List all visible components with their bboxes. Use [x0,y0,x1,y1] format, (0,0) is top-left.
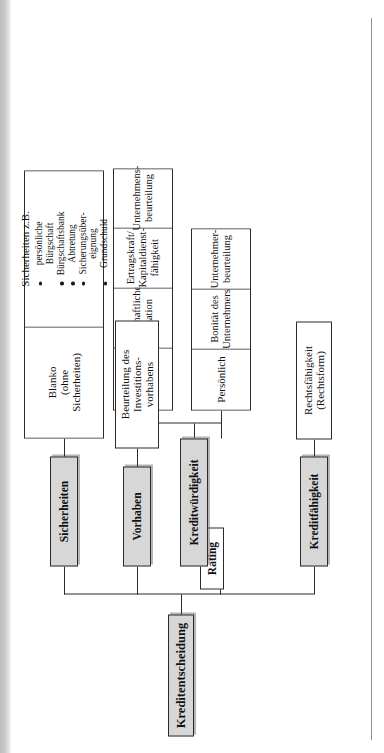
connector-trunk-to-vorhaben [137,566,138,594]
leaf-label: Bonität des Unternehmers [209,289,233,348]
connector-trunk-to-sicherheiten [64,566,65,594]
node-root-kreditentscheidung[interactable]: Kreditentscheidung [168,614,194,736]
leaf-label: Rechtsfähigkeit (Rechtsform) [302,343,327,416]
node-sicherheiten[interactable]: Sicherheiten [50,456,78,566]
connector-root-stub [181,594,182,614]
leaf-label: Beurteilung des Investitions- vorhabens [119,347,156,420]
connector-kreditwuerdigkeit-stub [194,423,195,438]
node-label: Sicherheiten [58,478,71,543]
sicherheiten-list-item: Abtretung [67,211,78,275]
sicherheiten-list-item: Bürgschaft [45,211,56,275]
connector-trunk [64,593,314,594]
node-persoenlich[interactable]: Persönlich [192,348,250,409]
diagram-canvas: Kreditentscheidung Kreditfähigkeit Recht… [0,0,384,753]
sicherheiten-list-item: Sicherungsüber- [78,211,89,275]
leaf-label: Blanko (ohne Sicherheiten) [46,353,83,412]
leaf-sicherheiten-list[interactable]: Sicherheiten z.B. persönlicheBürgschaftB… [25,171,103,326]
group-persoenlich: Persönlich Bonität des Unternehmers Unte… [191,228,251,410]
leaf-unternehmerbeurteilung[interactable]: Unternehmer- beurteilung [192,229,250,288]
leaf-rechtsfaehigkeit[interactable]: Rechtsfähigkeit (Rechtsform) [296,321,332,439]
leaf-beurteilung-investitionsvorhabens[interactable]: Beurteilung des Investitions- vorhabens [115,320,159,448]
node-label: Persönlich [215,356,227,402]
node-kreditfaehigkeit[interactable]: Kreditfähigkeit [300,456,328,566]
node-label: Kreditwürdigkeit [188,457,201,547]
node-label: Kreditentscheidung [174,620,188,729]
leaf-ertragskraft[interactable]: Ertragskraft/ Kapitaldienst- fähigkeit [114,227,172,287]
leaf-label: Unternehmens- beurteilung [131,165,155,230]
connector-kreditfaehigkeit-to-leaf [314,439,315,456]
connector-trunk-to-kreditfaehigkeit [314,566,315,594]
node-kreditwuerdigkeit[interactable]: Kreditwürdigkeit [180,438,208,566]
leaf-unternehmensbeurteilung[interactable]: Unternehmens- beurteilung [114,169,172,227]
sicherheiten-list-item: Grundschuld [99,211,110,275]
sicherheiten-bullet-list: persönlicheBürgschaftBürgschaftsbankAbtr… [34,211,110,286]
leaf-blanko[interactable]: Blanko (ohne Sicherheiten) [25,326,103,437]
connector-sicherheiten-to-group [64,438,65,456]
connector-to-persoenlich [221,410,222,438]
leaf-label: Unternehmer- beurteilung [209,229,233,288]
node-label: Vorhaben [131,490,144,542]
sicherheiten-list-item: eignung [88,211,99,275]
sicherheiten-list-item: Bürgschaftsbank [56,211,67,275]
node-vorhaben[interactable]: Vorhaben [123,466,151,566]
leaf-label: Ertragskraft/ Kapitaldienst- fähigkeit [125,228,160,287]
group-sicherheiten: Blanko (ohne Sicherheiten) Sicherheiten … [24,170,104,438]
node-label: Kreditfähigkeit [308,471,321,551]
list-heading: Sicherheiten z.B. [19,211,31,286]
sicherheiten-list-item: persönliche [34,211,45,275]
leaf-bonitaet-des-unternehmers[interactable]: Bonität des Unternehmers [192,288,250,348]
connector-vorhaben-to-leaf [137,448,138,466]
